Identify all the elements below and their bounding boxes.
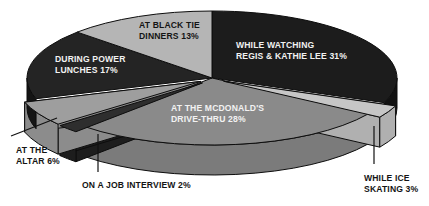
pie-label-at-the-altar: AT THE ALTAR 6% — [16, 145, 60, 167]
pie-label-on-a-job-interview: ON A JOB INTERVIEW 2% — [82, 180, 191, 191]
pie-chart: WHILE WATCHING REGIS & KATHIE LEE 31%AT … — [0, 0, 429, 206]
pie-top-faces — [25, 11, 397, 145]
pie-label-while-ice-skating: WHILE ICE SKATING 3% — [364, 173, 418, 195]
